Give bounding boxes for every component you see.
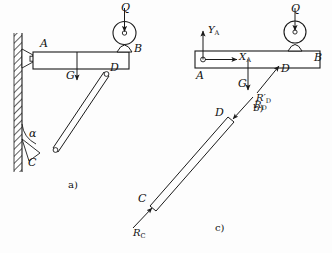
label-point-d: D — [110, 62, 119, 73]
label-force-rc: RC — [133, 228, 146, 238]
label-point-b-b: B — [314, 52, 322, 63]
label-force-xa: XA — [239, 52, 251, 62]
label-load-q-b: Q — [291, 3, 300, 14]
label-point-a-b: A — [196, 70, 204, 81]
label-point-a: A — [40, 38, 48, 49]
strut-cd-fbd — [150, 117, 234, 211]
label-angle-alpha: α — [29, 128, 36, 139]
label-load-q: Q — [121, 2, 130, 13]
mechanics-figure: A B Q G D α C a) YA XA A B Q G D R′D b) … — [0, 0, 332, 253]
panel-c-graphics — [133, 97, 253, 228]
label-force-ya: YA — [208, 25, 219, 35]
label-point-d-b: D — [281, 63, 290, 74]
label-point-c: C — [28, 157, 36, 168]
figure-canvas — [0, 0, 332, 253]
rc-force-arrow — [133, 208, 152, 228]
strut-cd-a — [53, 72, 109, 152]
panel-label-a: a) — [68, 180, 78, 190]
rd-prime-force-arrow — [257, 66, 279, 93]
panel-a-graphics — [14, 8, 136, 172]
label-point-c-c: C — [138, 193, 146, 204]
panel-label-c: c) — [215, 223, 225, 233]
label-weight-g-b: G — [238, 78, 247, 89]
label-point-d-c: D — [215, 107, 224, 118]
rd-force-arrow — [233, 97, 253, 119]
pulley-b-icon — [113, 8, 136, 52]
label-point-b: B — [134, 43, 142, 54]
panel-b-graphics — [195, 8, 320, 93]
label-weight-g: G — [66, 70, 75, 81]
hatched-wall-icon — [14, 33, 22, 172]
label-force-rd: RD — [254, 100, 267, 110]
